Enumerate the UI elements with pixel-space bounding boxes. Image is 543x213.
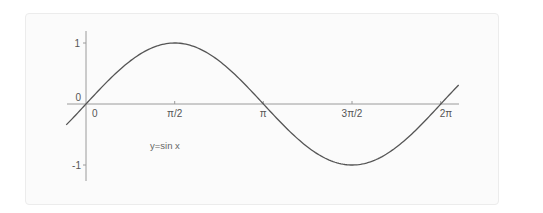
function-annotation: y=sin x bbox=[150, 140, 180, 151]
y-label-1: 1 bbox=[74, 38, 80, 49]
sine-chart: 1 0 -1 0 π/2 π 3π/2 2π y=sin x bbox=[0, 0, 543, 213]
x-label-0: 0 bbox=[92, 108, 98, 119]
x-label-3pi2: 3π/2 bbox=[342, 108, 363, 119]
x-label-pi2: π/2 bbox=[167, 108, 183, 119]
y-label-neg1: -1 bbox=[72, 160, 81, 171]
y-label-0: 0 bbox=[75, 92, 81, 103]
x-label-pi: π bbox=[260, 108, 267, 119]
x-label-2pi: 2π bbox=[440, 108, 453, 119]
